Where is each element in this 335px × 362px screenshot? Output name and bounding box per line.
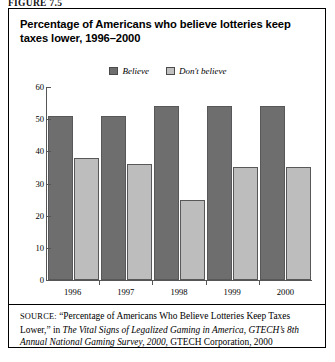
legend-item-believe: Believe (109, 66, 148, 76)
x-axis-label-1999: 1999 (206, 281, 259, 297)
source-note: SOURCE: “Percentage of Americans Who Bel… (20, 310, 314, 349)
x-axis-tick-mark (259, 281, 260, 285)
bar-2000-believe (260, 106, 285, 280)
chart-legend: Believe Don't believe (9, 66, 327, 76)
x-axis-tick-mark (206, 281, 207, 285)
x-axis-cell: 1997 (99, 281, 152, 303)
bar-group (259, 87, 312, 280)
x-axis-label-1996: 1996 (46, 281, 99, 297)
y-axis-tick-mark (47, 119, 51, 120)
x-axis-label-1997: 1997 (99, 281, 152, 297)
figure-number-label: FIGURE 7.5 (8, 0, 62, 8)
x-axis-cell: 1999 (206, 281, 259, 303)
x-axis-cell: 1996 (46, 281, 99, 303)
bar-1996-believe (48, 116, 73, 280)
x-axis-cell: 1998 (152, 281, 205, 303)
y-axis-tick-mark (47, 248, 51, 249)
bar-group (153, 87, 206, 280)
figure-container: FIGURE 7.5 Percentage of Americans who b… (0, 0, 335, 362)
y-axis-tick-mark (47, 184, 51, 185)
legend-swatch-icon-dont-believe (166, 67, 175, 75)
bar-2000-dont-believe (286, 167, 311, 280)
legend-label-dont-believe: Don't believe (179, 66, 227, 76)
bar-1997-believe (101, 116, 126, 280)
y-axis-tick-label: 10 (35, 242, 47, 252)
figure-frame: Percentage of Americans who believe lott… (8, 8, 326, 348)
y-axis-tick-mark (47, 216, 51, 217)
bars-container (47, 87, 312, 280)
source-divider (9, 304, 325, 305)
legend-swatch-icon-believe (109, 67, 118, 75)
legend-item-dont-believe: Don't believe (166, 66, 227, 76)
x-axis-tick-mark (99, 281, 100, 285)
y-axis-tick-mark (47, 87, 51, 88)
plot-area: 0102030405060 (46, 87, 312, 281)
y-axis-tick-label: 20 (35, 210, 47, 220)
x-axis-label-2000: 2000 (259, 281, 312, 297)
bar-1998-believe (154, 106, 179, 280)
bar-group (206, 87, 259, 280)
y-axis-tick-mark (47, 151, 51, 152)
bar-1996-dont-believe (74, 158, 99, 280)
y-axis-tick-label: 60 (35, 82, 47, 92)
bar-1997-dont-believe (127, 164, 152, 280)
x-axis-label-1998: 1998 (152, 281, 205, 297)
bar-group (47, 87, 100, 280)
y-axis-tick-label: 50 (35, 114, 47, 124)
x-axis-cell: 2000 (259, 281, 312, 303)
y-axis-tick-label: 30 (35, 178, 47, 188)
y-axis-tick-label: 40 (35, 146, 47, 156)
x-axis-tick-mark (152, 281, 153, 285)
bar-1999-believe (207, 106, 232, 280)
source-prefix: SOURCE: (20, 312, 57, 321)
chart-title: Percentage of Americans who believe lott… (20, 18, 310, 45)
bar-1999-dont-believe (233, 167, 258, 280)
plot-wrapper: 0102030405060 19961997199819992000 (20, 81, 316, 303)
bar-group (100, 87, 153, 280)
bar-1998-dont-believe (180, 200, 205, 280)
x-axis: 19961997199819992000 (46, 281, 312, 303)
source-text-part-2: , GTECH Corporation, 2000 (166, 337, 273, 347)
legend-label-believe: Believe (122, 66, 148, 76)
